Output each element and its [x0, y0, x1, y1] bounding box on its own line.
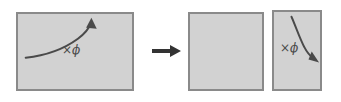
- source-panel-label: ×ϕ: [62, 44, 80, 56]
- source-curve-arrowhead: [86, 18, 97, 29]
- right-arrow-icon: [152, 44, 182, 58]
- transformation-arrow: [152, 44, 182, 58]
- result-a-graphic: [190, 14, 262, 89]
- panel-result-region-empty: [188, 12, 264, 91]
- diagram-figure: ×ϕ ×ϕ: [0, 0, 341, 102]
- result-panel-label: ×ϕ: [280, 42, 298, 54]
- result-curve-arrowhead: [309, 51, 320, 62]
- source-curve-path: [26, 23, 92, 58]
